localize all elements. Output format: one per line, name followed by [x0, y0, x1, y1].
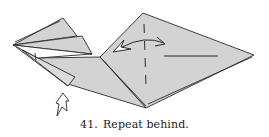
step-number: 41. [80, 118, 98, 131]
origami-diagram [0, 0, 269, 137]
hollow-push-arrow-icon [56, 93, 69, 116]
step-caption: 41.Repeat behind. [0, 118, 269, 131]
step-instruction: Repeat behind. [103, 118, 189, 131]
